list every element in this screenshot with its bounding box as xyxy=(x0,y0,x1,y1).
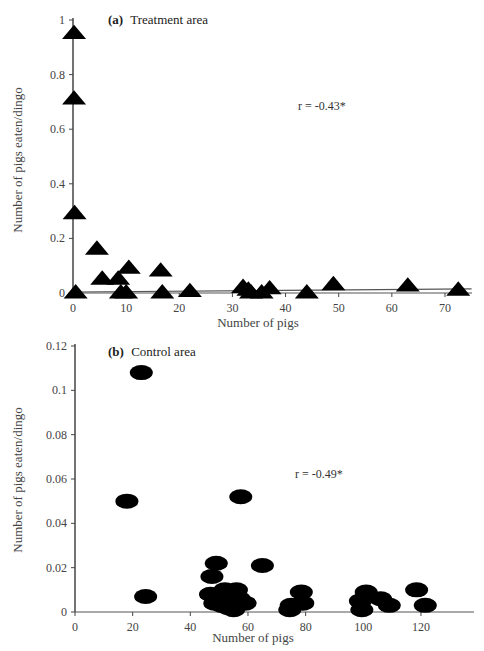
y-tick-label: 0.4 xyxy=(50,177,65,191)
data-point-ellipse xyxy=(234,596,257,611)
y-tick-label: 0.12 xyxy=(46,339,67,353)
data-point-triangle xyxy=(85,240,109,254)
x-tick-label: 30 xyxy=(226,301,238,315)
data-point-triangle xyxy=(62,25,86,39)
y-tick-label: 0.8 xyxy=(50,68,65,82)
y-tick-label: 0.04 xyxy=(46,516,67,530)
x-tick-label: 60 xyxy=(386,301,398,315)
data-point-triangle xyxy=(149,262,173,276)
x-tick-label: 40 xyxy=(280,301,292,315)
data-point-ellipse xyxy=(205,556,228,571)
panel-a-axes: 00.20.40.60.81010203040506070 xyxy=(50,13,472,315)
y-tick-label: 0.08 xyxy=(46,428,67,442)
data-point-ellipse xyxy=(378,598,401,613)
data-point-triangle xyxy=(64,284,88,298)
y-tick-label: 0.2 xyxy=(50,231,65,245)
data-point-ellipse xyxy=(414,598,437,613)
data-point-ellipse xyxy=(134,589,157,604)
data-point-triangle xyxy=(117,259,141,273)
x-tick-label: 40 xyxy=(184,620,196,634)
figure: 00.20.40.60.81010203040506070 (a) Treatm… xyxy=(0,0,484,651)
panel-b-letter: (b) xyxy=(108,344,124,359)
data-point-ellipse xyxy=(130,365,153,380)
panel-b-control-area: 00.020.040.060.080.10.12020406080100120 … xyxy=(10,339,474,645)
data-point-triangle xyxy=(321,276,345,290)
panel-a-treatment-area: 00.20.40.60.81010203040506070 (a) Treatm… xyxy=(10,12,472,330)
data-point-ellipse xyxy=(350,602,373,617)
panel-a-data-points xyxy=(62,25,470,299)
y-tick-label: 0.06 xyxy=(46,472,67,486)
data-point-ellipse xyxy=(405,582,428,597)
panel-b-title-text: Control area xyxy=(131,344,196,359)
x-tick-label: 120 xyxy=(412,620,430,634)
y-tick-label: 0.02 xyxy=(46,561,67,575)
panel-a-x-axis-title: Number of pigs xyxy=(217,315,299,330)
panel-b-r-value: r = -0.49* xyxy=(295,467,343,481)
x-tick-label: 70 xyxy=(439,301,451,315)
panel-a-y-axis-title: Number of pigs eaten/dingo xyxy=(10,87,25,233)
panel-a-title-text: Treatment area xyxy=(130,12,208,27)
panel-b-data-points xyxy=(115,365,436,617)
x-tick-label: 10 xyxy=(120,301,132,315)
data-point-triangle xyxy=(63,205,87,219)
x-tick-label: 20 xyxy=(173,301,185,315)
x-tick-label: 0 xyxy=(70,301,76,315)
y-tick-label: 0 xyxy=(61,605,67,619)
x-tick-label: 50 xyxy=(333,301,345,315)
x-tick-label: 100 xyxy=(354,620,372,634)
panel-b-y-axis-title: Number of pigs eaten/dingo xyxy=(10,407,25,553)
y-tick-label: 1 xyxy=(59,13,65,27)
x-tick-label: 0 xyxy=(72,620,78,634)
panel-a-r-value: r = -0.43* xyxy=(298,99,346,113)
data-point-triangle xyxy=(62,90,86,104)
data-point-triangle xyxy=(295,284,319,298)
y-tick-label: 0.6 xyxy=(50,122,65,136)
data-point-triangle xyxy=(178,283,202,297)
panel-a-title: (a) Treatment area xyxy=(108,12,208,27)
data-point-triangle xyxy=(396,277,420,291)
data-point-ellipse xyxy=(200,569,223,584)
y-tick-label: 0.1 xyxy=(52,383,67,397)
panel-a-letter: (a) xyxy=(108,12,123,27)
x-tick-label: 80 xyxy=(300,620,312,634)
data-point-ellipse xyxy=(115,494,138,509)
x-tick-label: 20 xyxy=(127,620,139,634)
data-point-ellipse xyxy=(229,489,252,504)
panel-b-title: (b) Control area xyxy=(108,344,196,359)
data-point-ellipse xyxy=(251,558,274,573)
panel-b-x-axis-title: Number of pigs xyxy=(212,630,294,645)
data-point-ellipse xyxy=(278,602,301,617)
